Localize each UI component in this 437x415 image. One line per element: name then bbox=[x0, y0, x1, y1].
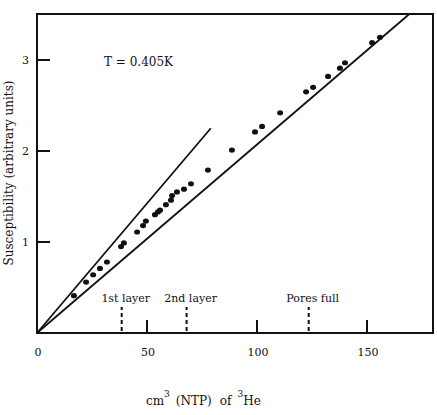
x-tick-label: 150 bbox=[358, 346, 379, 359]
data-point bbox=[157, 208, 163, 213]
x-axis-title-of: of bbox=[220, 394, 233, 408]
y-tick-label: 2 bbox=[22, 145, 29, 158]
temperature-annotation: T = 0.405K bbox=[104, 55, 174, 69]
data-point bbox=[325, 74, 331, 79]
data-point bbox=[188, 181, 194, 186]
data-point bbox=[134, 229, 140, 234]
x-tick-label: 50 bbox=[141, 346, 155, 359]
x-axis-title: cm3(NTP)of3He bbox=[146, 389, 261, 408]
data-point bbox=[163, 202, 169, 207]
data-point bbox=[143, 218, 149, 223]
data-point bbox=[90, 272, 96, 277]
data-point bbox=[169, 193, 175, 198]
x-axis-title-unit: cm bbox=[146, 394, 165, 408]
data-point bbox=[303, 89, 309, 94]
data-point bbox=[369, 40, 375, 45]
data-point bbox=[277, 110, 283, 115]
fit-lines bbox=[37, 15, 409, 334]
data-point bbox=[104, 259, 110, 264]
x-axis-title-exponent: 3 bbox=[164, 389, 170, 399]
data-point bbox=[121, 240, 127, 245]
x-tick-label: 100 bbox=[248, 346, 269, 359]
x-tick-label: 0 bbox=[35, 346, 42, 359]
layer-marker-label: Pores full bbox=[286, 292, 339, 305]
data-point bbox=[83, 279, 89, 284]
data-point bbox=[71, 293, 77, 298]
fit-line bbox=[37, 15, 409, 334]
susceptibility-chart: 123 050100150 1st layer2nd layerPores fu… bbox=[0, 0, 437, 415]
y-axis-title: Susceptibility (arbitrary units) bbox=[2, 81, 16, 266]
plot-frame bbox=[37, 14, 433, 333]
layer-markers: 1st layer2nd layerPores full bbox=[101, 292, 339, 331]
data-point bbox=[97, 266, 103, 271]
x-axis-title-element: He bbox=[243, 394, 261, 408]
data-point bbox=[252, 129, 258, 134]
data-point bbox=[174, 189, 180, 194]
data-point bbox=[229, 147, 235, 152]
data-point bbox=[140, 223, 146, 228]
x-axis-title-ntp: (NTP) bbox=[176, 394, 212, 408]
data-point bbox=[337, 66, 343, 71]
data-point bbox=[259, 124, 265, 129]
data-points bbox=[71, 35, 383, 299]
data-point bbox=[168, 198, 174, 203]
layer-marker-label: 2nd layer bbox=[164, 292, 217, 305]
data-point bbox=[205, 168, 211, 173]
data-point bbox=[342, 60, 348, 65]
data-point bbox=[377, 35, 383, 40]
layer-marker-label: 1st layer bbox=[101, 292, 150, 305]
x-axis-ticks: 050100150 bbox=[35, 320, 379, 359]
y-tick-label: 1 bbox=[22, 236, 29, 249]
data-point bbox=[310, 85, 316, 90]
data-point bbox=[181, 187, 187, 192]
y-tick-label: 3 bbox=[22, 54, 29, 67]
